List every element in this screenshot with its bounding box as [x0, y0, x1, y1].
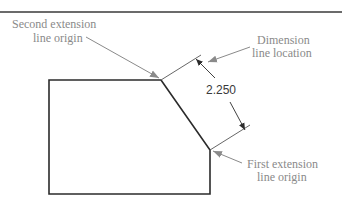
part-outline — [49, 80, 210, 194]
second-extension-line — [161, 55, 201, 80]
first-extension-label-1: First extension — [247, 157, 318, 171]
dimension-line-leader — [208, 47, 250, 62]
first-extension-label-2: line origin — [257, 170, 307, 184]
second-extension-label-2: line origin — [33, 31, 83, 45]
dimension-line-upper — [196, 59, 215, 78]
first-extension-leader — [213, 151, 242, 163]
dimension-line-lower — [230, 102, 245, 130]
second-extension-label-1: Second extension — [12, 17, 96, 31]
dimension-value: 2.250 — [206, 83, 236, 97]
dimension-diagram: 2.250 Second extension line origin Dimen… — [0, 0, 342, 205]
dimension-line-label-1: Dimension — [257, 33, 310, 47]
dimension-line-label-2: line location — [252, 46, 312, 60]
second-extension-leader — [86, 37, 159, 78]
